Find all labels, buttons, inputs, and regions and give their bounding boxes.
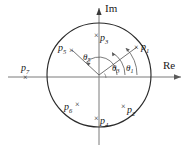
pole-p5: p5 × — [57, 42, 74, 55]
pole-p4-label: p4 — [99, 115, 109, 128]
imaginary-axis-label: Im — [105, 2, 118, 14]
real-axis — [8, 74, 181, 80]
pole-zero-diagram: Im Re × p1 × p2 × p3 × p4 p5 × p6 — [0, 0, 196, 151]
pole-p1-label: p1 — [140, 41, 149, 54]
diagram-canvas: Im Re × p1 × p2 × p3 × p4 p5 × p6 — [0, 0, 196, 151]
pole-p6: p6 × — [63, 100, 80, 114]
real-axis-arrowhead — [174, 74, 181, 80]
pole-p2-marker: × — [121, 102, 126, 111]
theta1-arc-arrowhead — [126, 48, 130, 52]
pole-p3-label: p3 — [99, 32, 109, 45]
pole-p5-marker: × — [69, 46, 74, 55]
pole-p6-label: p6 — [63, 101, 73, 114]
pole-p4-marker: × — [94, 114, 99, 123]
theta3-label: θ3 — [112, 63, 119, 74]
pole-p7: p7 × — [20, 62, 30, 82]
pole-p1-label-subscript: 1 — [146, 47, 149, 54]
pole-p3: × p3 — [94, 31, 109, 45]
pole-p2: × p2 — [121, 102, 136, 117]
pole-p3-marker: × — [94, 31, 99, 40]
pole-p5-label: p5 — [57, 42, 67, 55]
pole-p1-marker: × — [134, 43, 139, 52]
theta3-label-subscript: 3 — [115, 68, 119, 74]
imaginary-axis-arrowhead — [96, 8, 101, 15]
pole-p4: × p4 — [94, 114, 109, 128]
pole-p6-marker: × — [75, 100, 80, 109]
pole-p7-marker: × — [23, 73, 28, 82]
pole-p2-label: p2 — [126, 104, 136, 117]
pole-p5-label-subscript: 5 — [63, 48, 67, 55]
pole-p2-label-subscript: 2 — [132, 110, 136, 117]
pole-p1: × p1 — [134, 41, 149, 54]
theta5-label-subscript: 5 — [87, 57, 90, 63]
theta3-arc-arrowhead — [112, 53, 116, 57]
theta1-label: θ1 — [126, 63, 133, 74]
pole-p3-label-subscript: 3 — [104, 38, 109, 45]
theta1-label-subscript: 1 — [130, 68, 133, 74]
theta5-label: θ5 — [83, 52, 90, 63]
pole-p6-label-subscript: 6 — [69, 107, 73, 114]
real-axis-label: Re — [163, 59, 175, 71]
